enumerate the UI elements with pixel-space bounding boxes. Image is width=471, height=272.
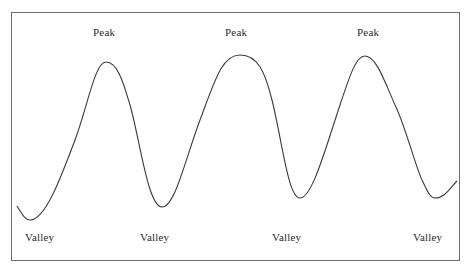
valley-label-1: Valley xyxy=(25,231,54,243)
valley-label-4: Valley xyxy=(413,231,442,243)
valley-label-3: Valley xyxy=(272,231,301,243)
wave-curve xyxy=(0,0,471,272)
peak-label-3: Peak xyxy=(357,26,379,38)
valley-label-2: Valley xyxy=(140,231,169,243)
wave-path xyxy=(17,55,457,220)
peak-label-2: Peak xyxy=(225,26,247,38)
peak-label-1: Peak xyxy=(93,26,115,38)
